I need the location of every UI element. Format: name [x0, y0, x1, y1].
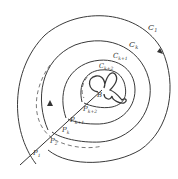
label-ck2: Ck+2 [99, 62, 113, 71]
diagram: C1 Ck Ck+1 Ck+2 B Pk+2 Pk+1 Pk P2 P1 [0, 0, 178, 179]
label-c1: C1 [148, 23, 157, 33]
arrow-ck [47, 100, 53, 106]
label-ck1: Ck+1 [113, 52, 128, 61]
label-pk: Pk [61, 126, 70, 135]
spiral-diagram: C1 Ck Ck+1 Ck+2 B Pk+2 Pk+1 Pk P2 P1 [0, 0, 178, 179]
label-ck: Ck [129, 40, 138, 50]
label-p1: P1 [32, 149, 41, 158]
label-pk1: Pk+1 [69, 116, 84, 125]
inner-loops [89, 73, 126, 103]
label-b: B [96, 91, 102, 99]
label-p2: P2 [49, 137, 58, 146]
